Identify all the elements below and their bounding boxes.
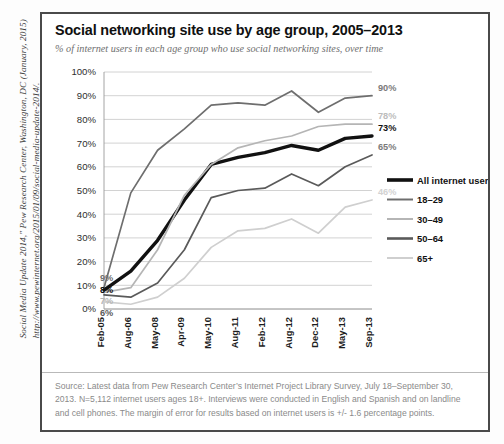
x-axis-tick-label: Aug-11: [229, 317, 240, 348]
x-axis-tick-label: May-13: [336, 317, 347, 349]
figure-root: Social Media Update 2014," Pew Research …: [0, 0, 504, 444]
y-axis-tick-label: 70%: [77, 138, 97, 149]
data-label-start-50-64: 6%: [100, 308, 113, 318]
legend-label-30-49: 30–49: [417, 214, 443, 225]
data-label-end-all-internet-users: 73%: [378, 123, 396, 133]
y-axis-tick-label: 20%: [77, 256, 97, 267]
y-axis-tick-label: 100%: [71, 66, 96, 77]
y-axis-tick-label: 50%: [77, 185, 97, 196]
y-axis-tick-label: 10%: [77, 280, 97, 291]
series-line-30-49: [104, 124, 372, 292]
x-axis-tick-label: Feb-12: [256, 317, 267, 347]
legend-label-18-29: 18–29: [417, 194, 443, 205]
x-axis-tick-label: Feb-05: [95, 317, 106, 347]
y-axis-tick-label: 60%: [77, 161, 97, 172]
series-line-all-internet-users: [104, 136, 372, 290]
data-label-start-all-internet-users: 8%: [100, 285, 113, 295]
y-axis-tick-label: 30%: [77, 232, 97, 243]
legend-label-65: 65+: [417, 253, 433, 264]
x-axis-tick-label: Aug-06: [122, 317, 133, 349]
data-label-end-50-64: 65%: [378, 142, 396, 152]
legend-label-all-internet-users: All internet users: [417, 175, 488, 186]
x-axis-tick-label: May-08: [149, 317, 160, 349]
plot-area: 100%90%80%70%60%50%40%30%20%10%0%9%8%7%6…: [42, 62, 488, 392]
x-axis-tick-label: May-10: [202, 317, 213, 349]
series-line-65: [104, 200, 372, 304]
x-axis-tick-label: Sep-13: [363, 317, 374, 348]
chart-panel: Social networking site use by age group,…: [40, 12, 490, 432]
x-axis-tick-label: Dec-12: [309, 317, 320, 348]
line-chart: 100%90%80%70%60%50%40%30%20%10%0%9%8%7%6…: [42, 62, 488, 392]
y-axis-tick-label: 90%: [77, 90, 97, 101]
data-label-start-18-29: 9%: [100, 273, 113, 283]
x-axis-tick-label: Apr-09: [175, 317, 186, 347]
data-label-start-30-49: 7%: [100, 296, 113, 306]
legend-label-50-64: 50–64: [417, 233, 444, 244]
data-label-end-18-29: 90%: [378, 83, 396, 93]
chart-subtitle: % of internet users in each age group wh…: [55, 43, 383, 54]
source-note-box: Source: Latest data from Pew Research Ce…: [42, 372, 488, 430]
data-label-end-30-49: 78%: [378, 111, 396, 121]
data-label-end-65: 46%: [378, 187, 396, 197]
source-note: Source: Latest data from Pew Research Ce…: [55, 380, 475, 420]
y-axis-tick-label: 0%: [82, 303, 96, 314]
page-title: Social networking site use by age group,…: [55, 22, 403, 38]
x-axis-tick-label: Aug-12: [283, 317, 294, 349]
y-axis-tick-label: 80%: [77, 114, 97, 125]
series-line-50-64: [104, 155, 372, 297]
y-axis-tick-label: 40%: [77, 209, 97, 220]
